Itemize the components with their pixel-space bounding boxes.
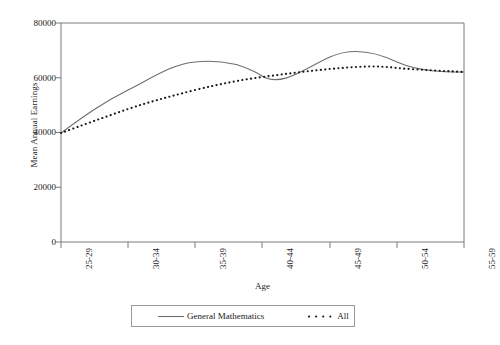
legend-solid-line-icon xyxy=(158,312,184,321)
legend-item-general-mathematics: General Mathematics xyxy=(158,311,264,321)
legend-label-all: All xyxy=(337,311,349,321)
legend-item-all: All xyxy=(308,311,349,321)
x-axis-title: Age xyxy=(0,281,500,291)
legend-dotted-line-icon xyxy=(308,312,334,321)
legend-label-general-mathematics: General Mathematics xyxy=(187,311,264,321)
chart-legend: General Mathematics All xyxy=(131,305,355,327)
